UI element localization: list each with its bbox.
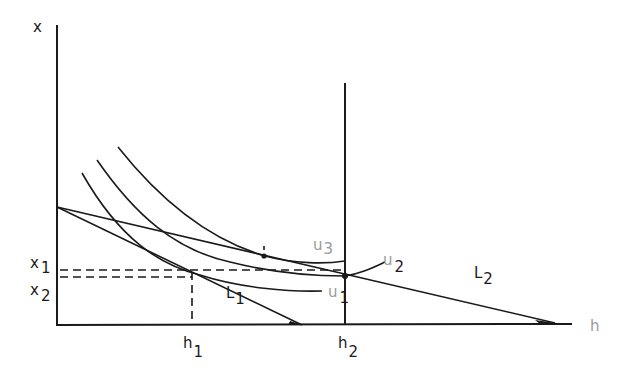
h1-label: h1 [183, 334, 203, 361]
indifference-curve-u1 [82, 173, 322, 291]
diagram-canvas: x h x1 x2 h1 h2 L1 L2 u1 u2 u3 [0, 0, 627, 375]
x-axis [57, 324, 572, 325]
l2-label: L2 [474, 264, 493, 288]
u3-label: u3 [313, 236, 333, 258]
indifference-curve-u3 [118, 147, 345, 263]
x-axis-label: h [590, 317, 600, 335]
indifference-curve-u2 [97, 160, 385, 276]
l1-label: L1 [226, 284, 245, 308]
corner-point-h2 [342, 273, 348, 279]
y-axis-label: x [33, 18, 42, 36]
x1-label: x1 [30, 254, 50, 277]
x2-label: x2 [30, 281, 50, 305]
budget-line-l1 [57, 207, 302, 325]
h2-label: h2 [338, 334, 358, 361]
tangency-point [261, 253, 266, 258]
u2-label: u2 [383, 251, 404, 276]
